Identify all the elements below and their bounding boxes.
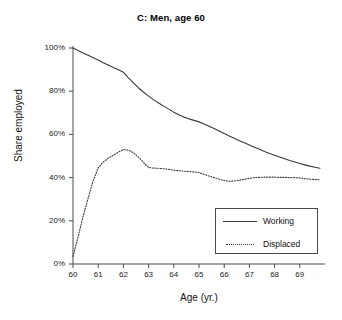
legend-label-working: Working (263, 216, 294, 226)
chart-figure: C: Men, age 60 Share employed Age (yr.) … (0, 0, 342, 320)
y-tick-label: 80% (25, 86, 65, 95)
chart-legend: Working Displaced (215, 208, 318, 254)
y-tick-label: 40% (25, 173, 65, 182)
y-tick-label: 0% (25, 259, 65, 268)
series-line-working (73, 48, 320, 168)
legend-label-displaced: Displaced (263, 239, 300, 249)
legend-item-working: Working (216, 209, 319, 232)
legend-item-displaced: Displaced (216, 232, 319, 255)
y-tick-label: 20% (25, 216, 65, 225)
y-tick-label: 60% (25, 129, 65, 138)
legend-swatch-solid-icon (223, 216, 257, 226)
y-tick-label: 100% (25, 43, 65, 52)
x-tick-label: 69 (285, 270, 315, 279)
legend-swatch-dotted-icon (223, 239, 257, 249)
